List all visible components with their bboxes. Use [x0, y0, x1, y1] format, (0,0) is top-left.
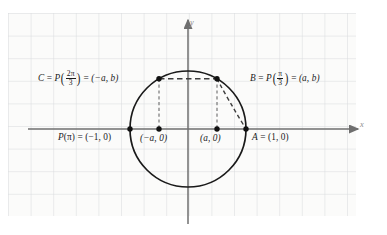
point-pos-a-marker: [214, 126, 219, 131]
label-C-numerator: 2π: [66, 70, 76, 78]
label-B-numerator: π: [277, 70, 283, 78]
label-B-paren-close: ): [284, 71, 288, 86]
label-A-equals: =: [258, 132, 268, 142]
label-B-equals-1: =: [256, 73, 266, 83]
label-P-pi-equals: =: [75, 132, 85, 142]
label-pos-a-coords: (a, 0): [200, 133, 221, 143]
point-A-marker: [243, 126, 248, 131]
label-C-function: P: [55, 73, 61, 83]
label-C-fraction: 2π3: [66, 70, 76, 87]
label-C-equals-1: =: [44, 73, 54, 83]
label-C-paren-close: ): [77, 71, 81, 86]
label-point-B: B = P(π3) = (a, b): [250, 70, 320, 87]
graph-paper-grid: [8, 13, 356, 216]
figure-page: x y C = P(2π3) = (−a, b) B = P(π3) = (a,…: [0, 0, 387, 235]
label-B-equals-2: =: [289, 73, 299, 83]
label-B-coords: (a, b): [299, 73, 320, 83]
point-neg-a-marker: [156, 126, 161, 131]
label-neg-a-coords: (−a, 0): [140, 133, 167, 143]
label-point-neg-a: (−a, 0): [140, 134, 167, 143]
label-point-pos-a: (a, 0): [200, 134, 221, 143]
x-axis-label: x: [360, 121, 364, 129]
label-point-P-pi: P(π) = (−1, 0): [58, 133, 111, 142]
label-B-fraction: π3: [277, 70, 283, 87]
label-C-equals-2: =: [81, 73, 91, 83]
label-P-pi-argument: (π): [64, 132, 75, 142]
label-point-C: C = P(2π3) = (−a, b): [38, 70, 118, 87]
label-B-denominator: 3: [277, 78, 283, 87]
label-A-coords: (1, 0): [268, 132, 289, 142]
label-B-function: P: [266, 73, 272, 83]
label-P-pi-coords: (−1, 0): [85, 132, 111, 142]
unit-circle-figure: [0, 0, 387, 235]
point-C-marker: [156, 76, 161, 81]
y-axis-label: y: [190, 19, 194, 27]
point-P-pi-marker: [127, 126, 132, 131]
label-C-paren-open: (: [61, 71, 65, 86]
point-B-marker: [214, 76, 219, 81]
label-point-A: A = (1, 0): [252, 133, 289, 142]
label-C-denominator: 3: [66, 78, 76, 87]
label-B-paren-open: (: [272, 71, 276, 86]
label-C-coords: (−a, b): [91, 73, 118, 83]
